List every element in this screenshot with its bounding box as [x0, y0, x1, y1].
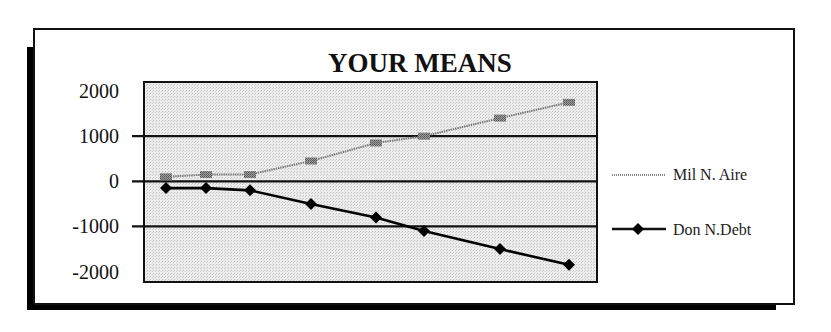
square-marker-icon: [160, 173, 172, 180]
y-tick-label: 0: [109, 170, 119, 192]
y-tick-label: -2000: [72, 261, 119, 283]
square-marker-icon: [494, 115, 506, 122]
square-marker-icon: [563, 99, 575, 106]
legend-item-mil-n-aire: Mil N. Aire: [612, 166, 747, 183]
legend-diamond-icon: [632, 223, 644, 235]
legend-label-mil-n-aire: Mil N. Aire: [673, 166, 747, 183]
square-marker-icon: [305, 158, 317, 165]
line-chart: YOUR MEANS 200010000-1000-2000 Mil N. Ai…: [0, 0, 831, 332]
square-marker-icon: [370, 139, 382, 146]
y-tick-label: 2000: [79, 80, 119, 102]
y-tick-label: 1000: [79, 125, 119, 147]
legend-item-don-n-debt: Don N.Debt: [612, 221, 752, 238]
y-tick-label: -1000: [72, 215, 119, 237]
chart-title: YOUR MEANS: [328, 48, 512, 78]
legend: Mil N. Aire Don N.Debt: [612, 166, 752, 238]
square-marker-icon: [244, 171, 256, 178]
legend-label-don-n-debt: Don N.Debt: [673, 221, 752, 238]
square-marker-icon: [418, 133, 430, 140]
y-axis-ticks: 200010000-1000-2000: [72, 80, 119, 283]
square-marker-icon: [200, 171, 212, 178]
